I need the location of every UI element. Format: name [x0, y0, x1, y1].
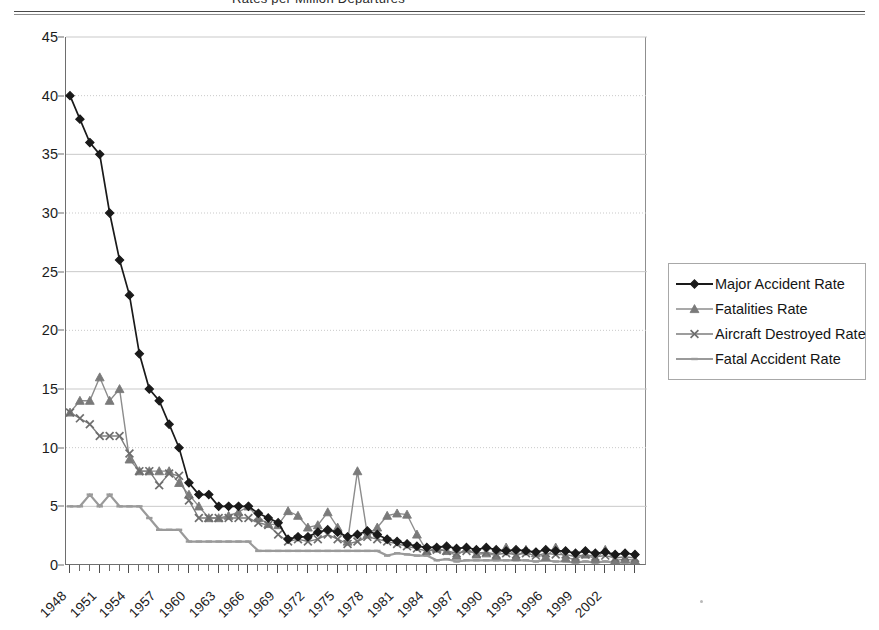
legend-item-label: Fatal Accident Rate	[715, 351, 841, 367]
triangle-marker	[294, 511, 303, 519]
x-axis-tick-mark	[277, 565, 278, 573]
legend-item[interactable]: Fatalities Rate	[674, 296, 859, 321]
x-axis-tick-mark	[376, 565, 377, 571]
x-axis-tick-label: 1978	[334, 588, 366, 620]
x-axis-tick-mark	[109, 565, 110, 571]
x-axis-tick-mark	[168, 565, 169, 571]
x-axis-tick-mark	[436, 565, 437, 571]
x-axis-tick-mark	[495, 565, 496, 571]
plot-area	[65, 37, 646, 565]
x-axis-tick-mark	[99, 565, 100, 573]
x-axis-tick-mark	[218, 565, 219, 573]
triangle-marker	[393, 509, 402, 517]
x-axis-tick-label: 1966	[215, 588, 247, 620]
y-axis-tick-mark	[58, 95, 64, 96]
x-axis-tick-mark	[247, 565, 248, 573]
x-marker	[274, 531, 282, 539]
x-axis-tick-mark	[366, 565, 367, 573]
diamond-marker	[175, 444, 183, 452]
x-axis-tick-mark	[545, 565, 546, 573]
triangle-marker	[115, 385, 124, 393]
legend-item-label: Fatalities Rate	[715, 301, 808, 317]
clipped-page-title: Rates per Million Departures	[232, 0, 552, 5]
x-axis-tick-mark	[555, 565, 556, 571]
diamond-marker	[66, 92, 74, 100]
x-axis-tick-mark	[634, 565, 635, 573]
y-axis-tick-mark	[58, 506, 64, 507]
diamond-marker	[343, 533, 351, 541]
diamond-marker	[234, 502, 242, 510]
x-axis-tick-label: 1951	[67, 588, 99, 620]
x-marker	[76, 414, 84, 422]
x-axis-tick-mark	[515, 565, 516, 573]
x-axis-tick-label: 1975	[305, 588, 337, 620]
x-axis-tick-mark	[327, 565, 328, 571]
x-axis-tick-mark	[386, 565, 387, 571]
chart-figure: 051015202530354045 194819511954195719601…	[0, 20, 879, 630]
diamond-marker	[314, 528, 322, 536]
legend-key-x-marker	[674, 324, 715, 344]
x-axis-tick-mark	[456, 565, 457, 573]
x-axis-tick-mark	[584, 565, 585, 571]
x-axis-tick-label: 1990	[453, 588, 485, 620]
legend-item[interactable]: Major Accident Rate	[674, 271, 859, 296]
x-axis-tick-mark	[257, 565, 258, 571]
chart-legend: Major Accident RateFatalities RateAircra…	[668, 263, 866, 380]
series-triangle	[70, 377, 635, 560]
x-axis-tick-mark	[198, 565, 199, 571]
x-axis-tick-mark	[624, 565, 625, 571]
series-line	[70, 377, 635, 560]
y-axis-tick-mark	[58, 154, 64, 155]
series-markers	[66, 92, 639, 559]
x-axis-tick-mark	[416, 565, 417, 571]
x-axis-tick-mark	[426, 565, 427, 573]
screenshot-page: Rates per Million Departures 05101520253…	[0, 0, 879, 630]
legend-key-diamond-marker	[674, 274, 715, 294]
x-axis-tick-mark	[158, 565, 159, 573]
y-axis-tick-label: 20	[12, 322, 58, 338]
diamond-marker	[115, 256, 123, 264]
x-axis-tick-mark	[475, 565, 476, 571]
x-axis-tick-label: 1969	[245, 588, 277, 620]
series-diamond	[70, 96, 635, 555]
x-axis-tick-mark	[287, 565, 288, 571]
x-axis-tick-mark	[208, 565, 209, 571]
y-axis-tick-mark	[58, 271, 64, 272]
triangle-marker	[353, 467, 362, 475]
x-axis-tick-label: 1999	[543, 588, 575, 620]
x-axis-tick-label: 1972	[275, 588, 307, 620]
diamond-marker	[264, 514, 272, 522]
x-axis-tick-mark	[297, 565, 298, 571]
y-axis-tick-label: 0	[12, 557, 58, 573]
legend-item[interactable]: Fatal Accident Rate	[674, 346, 859, 371]
diamond-marker	[125, 291, 133, 299]
x-axis-tick-label: 1948	[37, 588, 69, 620]
series-markers	[66, 409, 639, 562]
x-axis-tick-mark	[594, 565, 595, 571]
x-axis-tick-mark	[89, 565, 90, 571]
diamond-marker	[690, 279, 698, 287]
diamond-marker	[542, 546, 550, 554]
x-axis-tick-label: 1981	[364, 588, 396, 620]
legend-key-dash-marker	[674, 349, 715, 369]
scan-speck	[700, 600, 703, 603]
x-axis-tick-mark	[356, 565, 357, 571]
diamond-marker	[224, 502, 232, 510]
x-axis-tick-label: 1957	[126, 588, 158, 620]
x-axis-tick-mark	[138, 565, 139, 571]
x-axis-tick-label: 1954	[97, 588, 129, 620]
x-axis-tick-mark	[337, 565, 338, 573]
x-marker	[86, 420, 94, 428]
x-axis-tick-mark	[485, 565, 486, 573]
x-axis-tick-mark	[575, 565, 576, 573]
x-axis-tick-mark	[69, 565, 70, 573]
x-axis-tick-mark	[465, 565, 466, 571]
x-axis-tick-label: 1996	[513, 588, 545, 620]
x-axis-tick-mark	[406, 565, 407, 571]
series-line	[70, 96, 635, 555]
diamond-marker	[601, 548, 609, 556]
legend-item[interactable]: Aircraft Destroyed Rate	[674, 321, 859, 346]
x-axis-tick-mark	[178, 565, 179, 571]
diamond-marker	[106, 209, 114, 217]
x-axis-tick-mark	[148, 565, 149, 571]
